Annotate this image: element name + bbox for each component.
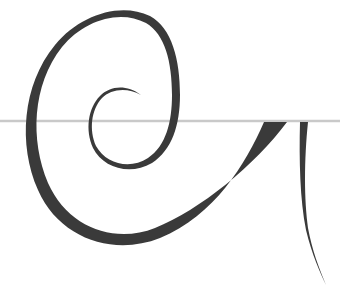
outer-swash-stroke: [26, 10, 287, 245]
spiral-swash-glyph: [0, 0, 340, 286]
glyph-canvas: [0, 0, 340, 286]
descender-stroke: [300, 122, 326, 285]
